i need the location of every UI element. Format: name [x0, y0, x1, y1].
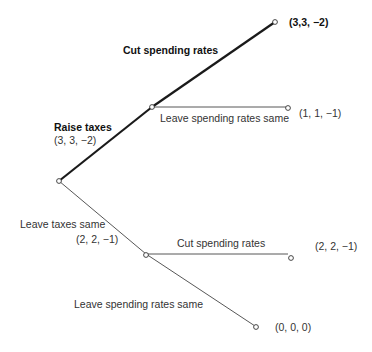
- leave-taxes-payoff: (2, 2, −1): [76, 234, 118, 245]
- node-raise-taxes: [150, 105, 155, 110]
- edge-leave-spending-bottom: [146, 254, 255, 326]
- mid-payoff: (1, 1, −1): [299, 108, 341, 119]
- node-leave-taxes: [144, 253, 149, 258]
- node-mid-terminal: [286, 106, 291, 111]
- bottom-payoff: (0, 0, 0): [275, 322, 311, 333]
- node-top-terminal: [273, 20, 278, 25]
- label-leave-spending-bottom: Leave spending rates same: [74, 299, 203, 310]
- edge-cut-spending-top: [152, 22, 275, 107]
- label-leave-spending-top: Leave spending rates same: [160, 113, 289, 124]
- node-cut-bottom-terminal: [289, 256, 294, 261]
- label-cut-spending-bottom: Cut spending rates: [177, 238, 265, 249]
- node-root: [57, 179, 62, 184]
- label-cut-spending-top: Cut spending rates: [123, 45, 218, 56]
- raise-taxes-payoff: (3, 3, −2): [54, 135, 96, 146]
- label-raise-taxes: Raise taxes: [54, 122, 112, 133]
- cut-bottom-payoff: (2, 2, −1): [315, 241, 357, 252]
- node-bottom-terminal: [254, 325, 259, 330]
- top-payoff: (3,3, −2): [289, 17, 328, 28]
- label-leave-taxes: Leave taxes same: [20, 219, 105, 230]
